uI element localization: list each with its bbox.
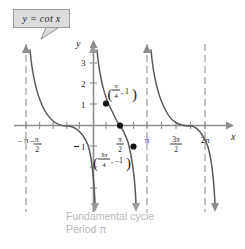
point-pi-over-2[interactable] — [117, 122, 123, 128]
pi-half-num: π — [118, 135, 122, 144]
upper-frac-num: π — [114, 82, 118, 90]
lower-frac-num: 3π — [100, 151, 108, 159]
upper-paren-close: ) — [132, 86, 137, 103]
branch-arrowheads-top — [22, 44, 151, 53]
lower-paren-open: ( — [93, 155, 98, 172]
neg-pi-half-den: 2 — [35, 145, 39, 154]
three-pi-half-den: 2 — [174, 145, 178, 154]
point-3pi-over-4[interactable] — [130, 143, 136, 149]
x-tick-label-pi-half: π 2 — [117, 135, 125, 154]
caption-line-fundamental-cycle: Fundamental cycle — [66, 210, 236, 223]
y-tick-2: 2 — [81, 79, 86, 89]
three-pi-half-num: 3π — [172, 135, 180, 144]
x-axis-label: x — [230, 131, 236, 142]
lower-y-value: , –1 — [111, 156, 123, 165]
y-axis-label: y — [75, 38, 81, 49]
caption-line-period: Period π — [66, 223, 236, 236]
y-tick-1: 1 — [81, 100, 86, 110]
arrow-right-top — [143, 44, 151, 53]
figure-caption: Fundamental cycle Period π — [66, 210, 236, 236]
neg-pi-half-sign: – — [29, 135, 35, 145]
upper-frac-den: 4 — [114, 92, 118, 100]
y-tick-3: 3 — [81, 58, 86, 68]
neg-pi-symbol: π — [24, 135, 29, 145]
point-label-lower: ( 3π 4 , –1 ) — [93, 151, 131, 172]
neg-pi-sign: – — [17, 135, 23, 145]
upper-y-value: , 1 — [121, 87, 129, 96]
pi-half-den: 2 — [118, 145, 122, 154]
neg-pi-half-num: π — [35, 135, 39, 144]
point-label-upper: ( π 4 , 1 ) — [108, 82, 138, 103]
arrow-left-top — [22, 44, 30, 53]
x-tick-label-three-pi-half: 3π 2 — [170, 135, 182, 154]
lower-paren-close: ) — [126, 155, 131, 172]
y-tick-neg-1: 1 — [81, 142, 86, 152]
x-tick-labels: – π – π 2 π 2 π 3π 2 — [17, 135, 210, 154]
x-axis-arrowhead — [226, 122, 234, 130]
equation-callout-label: y = cot x — [22, 13, 60, 24]
upper-paren-open: ( — [108, 86, 113, 103]
equation-callout-box: y = cot x — [13, 9, 70, 28]
x-tick-label-neg-pi: – π — [17, 135, 29, 145]
x-tick-label-pi: π — [145, 135, 150, 145]
cotangent-graph-figure: x y 3 2 1 1 — [0, 0, 245, 249]
x-tick-label-neg-pi-half: – π 2 — [29, 135, 42, 154]
lower-frac-den: 4 — [102, 161, 106, 169]
branch-center — [97, 50, 136, 204]
